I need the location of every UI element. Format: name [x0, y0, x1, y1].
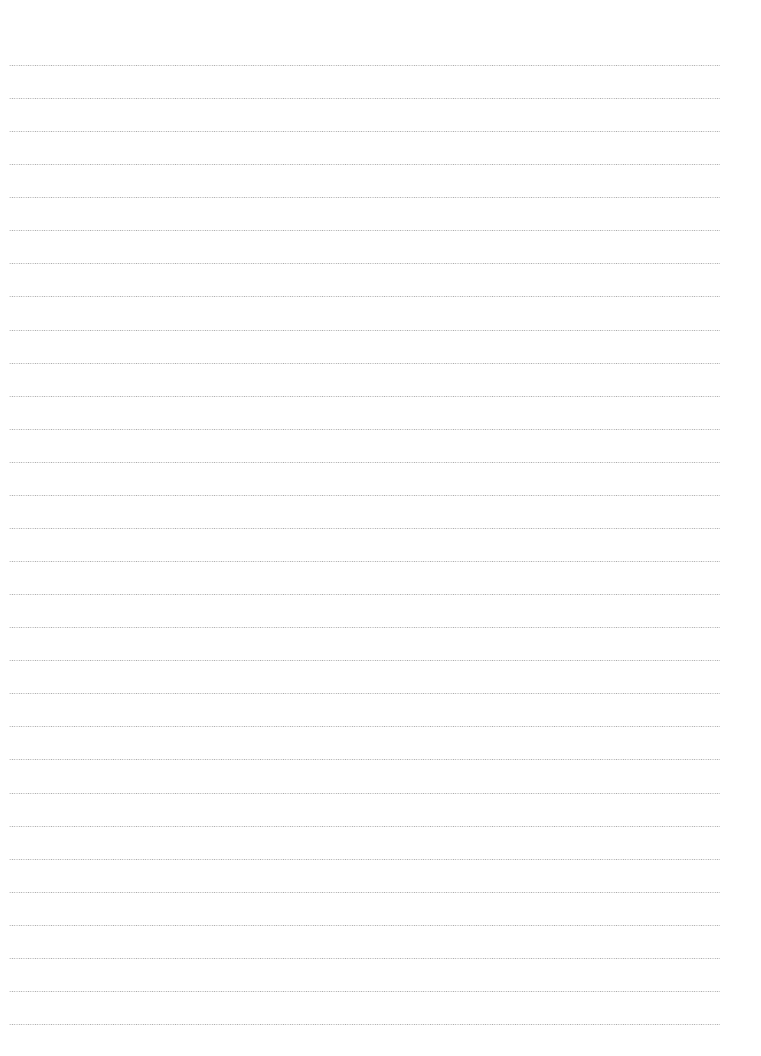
- ruled-line: [9, 429, 720, 430]
- ruled-line: [9, 164, 720, 165]
- ruled-line: [9, 495, 720, 496]
- ruled-line: [9, 627, 720, 628]
- ruled-line: [9, 65, 720, 66]
- ruled-line: [9, 826, 720, 827]
- ruled-line: [9, 693, 720, 694]
- ruled-line: [9, 296, 720, 297]
- ruled-line: [9, 197, 720, 198]
- ruled-line: [9, 859, 720, 860]
- ruled-line: [9, 230, 720, 231]
- ruled-line: [9, 330, 720, 331]
- ruled-line: [9, 925, 720, 926]
- ruled-line: [9, 263, 720, 264]
- ruled-line: [9, 1024, 720, 1025]
- ruled-line: [9, 726, 720, 727]
- ruled-line: [9, 98, 720, 99]
- lined-paper-page: [0, 0, 761, 1056]
- ruled-line: [9, 793, 720, 794]
- ruled-line: [9, 363, 720, 364]
- ruled-line: [9, 660, 720, 661]
- ruled-line: [9, 462, 720, 463]
- ruled-line: [9, 131, 720, 132]
- ruled-line: [9, 594, 720, 595]
- ruled-line: [9, 759, 720, 760]
- ruled-line: [9, 892, 720, 893]
- ruled-line: [9, 991, 720, 992]
- ruled-line: [9, 561, 720, 562]
- ruled-line: [9, 528, 720, 529]
- ruled-line: [9, 958, 720, 959]
- ruled-line: [9, 396, 720, 397]
